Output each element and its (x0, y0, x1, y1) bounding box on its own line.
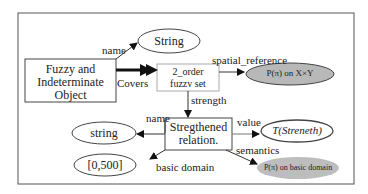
edge-strength: strength (191, 95, 226, 106)
domain-label: [0,500] (74, 159, 136, 171)
strengthened-label: Stregthened relation. (165, 121, 232, 147)
fuzzy-object-line3: Object (25, 89, 116, 102)
edge-value: value (237, 117, 261, 128)
edge-semantics: semantics (236, 145, 279, 156)
p-basic-label: P(π) on basic domain (257, 164, 339, 172)
strengthened-line2: relation. (165, 134, 232, 147)
fuzzy-set-line1: 2_order (157, 66, 219, 78)
tstrength-label: T(Streneth) (261, 125, 333, 136)
string-low-label: string (72, 127, 136, 139)
string-top-label: String (138, 35, 200, 47)
fuzzy-object-label: Fuzzy and Indeterminate Object (25, 63, 116, 102)
edge-spatial-reference: spatial_reference (212, 55, 287, 66)
fuzzy-set-label: 2_order fuzzv set (157, 66, 219, 90)
pxy-label: P(π) on X×Y (246, 69, 334, 78)
fuzzy-set-line2: fuzzv set (157, 78, 219, 90)
edge-name-low: name (146, 113, 170, 124)
edge-covers: Covers (117, 78, 148, 89)
edge-basic-domain: basic domain (156, 162, 214, 173)
edge-name-top: name (102, 45, 126, 56)
